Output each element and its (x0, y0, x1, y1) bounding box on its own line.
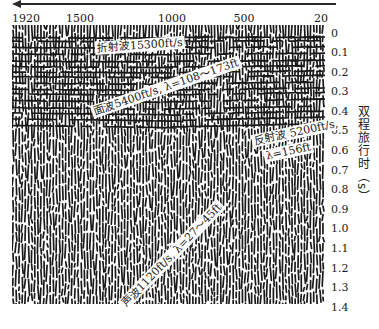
x-tick-1500: 1500 (66, 12, 94, 25)
y-tick: 0.2 (331, 66, 349, 79)
x-tick-500: 500 (234, 12, 255, 25)
arrow-left-icon (12, 0, 21, 8)
y-tick: 0.7 (331, 164, 349, 177)
x-tick-1000: 1000 (158, 12, 186, 25)
y-tick: 0.3 (331, 85, 349, 98)
y-tick: 1.4 (331, 301, 349, 314)
y-tick: 1.0 (331, 222, 349, 235)
y-axis-label: 双程旅行时（s） (355, 105, 371, 203)
offset-direction-arrow (14, 3, 336, 5)
y-tick: 0.9 (331, 203, 349, 216)
x-tick-20: 20 (314, 12, 328, 25)
y-tick: 0 (331, 27, 338, 40)
y-tick: 0.1 (331, 46, 349, 59)
y-tick: 1.3 (331, 281, 349, 294)
x-tick-1920: 1920 (12, 12, 40, 25)
y-tick: 0.6 (331, 144, 349, 157)
y-tick: 1.2 (331, 262, 349, 275)
y-tick: 1.1 (331, 242, 349, 255)
y-tick: 0.4 (331, 105, 349, 118)
y-tick: 0.8 (331, 183, 349, 196)
